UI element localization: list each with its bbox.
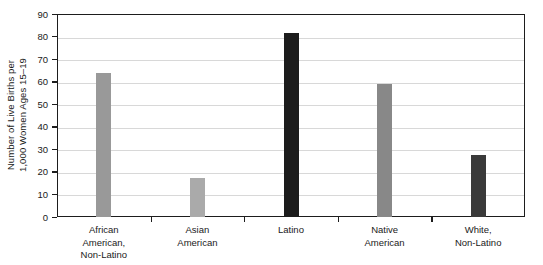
x-axis-category-label-line: White, (423, 224, 533, 237)
x-axis-category-label-line: Non-Latino (423, 237, 533, 250)
bar (471, 155, 486, 217)
y-tick-label: 20 (37, 165, 48, 178)
bar (190, 178, 205, 218)
bar (284, 33, 299, 217)
x-tick-mark (244, 217, 245, 222)
y-tick-label: 0 (43, 211, 48, 224)
x-axis-category-label: White,Non-Latino (423, 224, 533, 249)
y-tick-label: 80 (37, 30, 48, 43)
y-tick-label: 90 (37, 8, 48, 21)
y-tick-label: 30 (37, 143, 48, 156)
y-tick-label: 10 (37, 188, 48, 201)
y-tick-label: 50 (37, 98, 48, 111)
x-tick-mark (151, 217, 152, 222)
x-axis-category-label-line: American (142, 237, 252, 250)
bar (96, 73, 111, 217)
x-axis-labels: AfricanAmerican,Non-LatinoAsianAmericanL… (57, 224, 525, 265)
bar-chart: Number of Live Births per 1,000 Women Ag… (0, 0, 543, 265)
bar (377, 84, 392, 217)
x-axis-ticks (57, 217, 525, 223)
x-tick-mark (431, 217, 432, 222)
bars-layer (57, 14, 525, 217)
y-tick-label: 60 (37, 75, 48, 88)
x-tick-mark (338, 217, 339, 222)
x-axis-category-label-line: Non-Latino (49, 249, 159, 262)
y-tick-label: 40 (37, 120, 48, 133)
y-tick-label: 70 (37, 53, 48, 66)
